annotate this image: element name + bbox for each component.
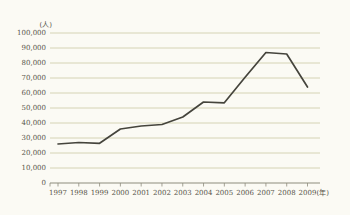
data-series-line [58, 53, 308, 145]
x-axis-tick-label: 2009 [299, 189, 317, 197]
x-axis-tick-label: 2004 [195, 189, 213, 197]
x-axis-tick-label: 2008 [278, 189, 296, 197]
y-axis-tick-label: 80,000 [22, 59, 47, 67]
y-axis-tick-label: 100,000 [17, 29, 46, 37]
y-axis-tick-label: 60,000 [22, 89, 47, 97]
y-axis-tick-label: 30,000 [22, 134, 47, 142]
y-axis-tick-label: 20,000 [22, 149, 47, 157]
x-axis-unit-label: (年) [317, 188, 330, 197]
y-axis-tick-label: 50,000 [22, 104, 47, 112]
x-axis-tick-label: 1997 [49, 189, 67, 197]
y-axis-tick-label: 10,000 [22, 164, 47, 172]
y-axis-unit-label: (人) [40, 21, 53, 29]
chart-figure: 010,00020,00030,00040,00050,00060,00070,… [0, 0, 350, 215]
x-axis-tick-label: 1998 [70, 189, 88, 197]
x-axis-tick-label: 2001 [132, 189, 150, 197]
x-axis-tick-label: 1999 [91, 189, 109, 197]
applicants-line-chart: 010,00020,00030,00040,00050,00060,00070,… [0, 0, 350, 215]
x-axis-tick-label: 2005 [215, 189, 233, 197]
x-axis-tick-label: 2000 [111, 189, 129, 197]
x-axis-tick-label: 2006 [236, 189, 254, 197]
x-axis-tick-label: 2007 [257, 189, 275, 197]
x-axis-tick-label: 2002 [153, 189, 171, 197]
y-axis-tick-label: 40,000 [22, 119, 47, 127]
x-axis-tick-label: 2003 [174, 189, 192, 197]
y-axis-tick-label: 90,000 [22, 44, 47, 52]
y-axis-tick-label: 70,000 [22, 74, 47, 82]
y-axis-tick-label: 0 [42, 179, 46, 187]
